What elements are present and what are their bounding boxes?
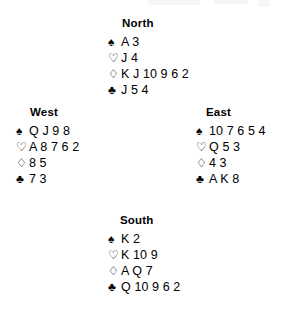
club-icon: ♣ (108, 279, 121, 295)
hand-south-clubs: Q 10 9 6 2 (121, 279, 180, 295)
hand-east-clubs: A K 8 (209, 171, 239, 187)
hand-south-label: South (120, 213, 228, 227)
spade-icon: ♠ (108, 34, 121, 50)
scan-artifact (148, 0, 200, 5)
heart-icon: ♡ (196, 139, 209, 155)
hand-west-spades: Q J 9 8 (29, 123, 70, 139)
hand-east-spades-row: ♠ 10 7 6 5 4 (196, 123, 292, 139)
hand-west-clubs-row: ♣ 7 3 (16, 171, 136, 187)
hand-west-label: West (30, 105, 136, 119)
hand-south-clubs-row: ♣ Q 10 9 6 2 (108, 279, 228, 295)
diamond-icon: ♢ (16, 155, 29, 171)
hand-north-hearts: J 4 (121, 50, 138, 66)
club-icon: ♣ (196, 171, 209, 187)
club-icon: ♣ (16, 171, 29, 187)
hand-west-clubs: 7 3 (29, 171, 47, 187)
heart-icon: ♡ (108, 50, 121, 66)
hand-south-diamonds-row: ♢ A Q 7 (108, 263, 228, 279)
hand-south-hearts-row: ♡ K 10 9 (108, 247, 228, 263)
diamond-icon: ♢ (108, 66, 121, 82)
hand-north-clubs: J 5 4 (121, 82, 149, 98)
hand-north-diamonds: K J 10 9 6 2 (121, 66, 189, 82)
hand-west-diamonds-row: ♢ 8 5 (16, 155, 136, 171)
hand-south-spades-row: ♠ K 2 (108, 231, 228, 247)
hand-north-spades: A 3 (121, 34, 139, 50)
hand-west-hearts: A 8 7 6 2 (29, 139, 79, 155)
heart-icon: ♡ (108, 247, 121, 263)
hand-west: West ♠ Q J 9 8 ♡ A 8 7 6 2 ♢ 8 5 ♣ 7 3 (16, 105, 136, 187)
hand-north-label: North (122, 16, 228, 30)
hand-east-diamonds: 4 3 (209, 155, 227, 171)
hand-east-spades: 10 7 6 5 4 (209, 123, 266, 139)
hand-east-diamonds-row: ♢ 4 3 (196, 155, 292, 171)
hand-south-diamonds: A Q 7 (121, 263, 153, 279)
hand-north-clubs-row: ♣ J 5 4 (108, 82, 228, 98)
hand-east-hearts: Q 5 3 (209, 139, 240, 155)
hand-south-spades: K 2 (121, 231, 140, 247)
hand-north: North ♠ A 3 ♡ J 4 ♢ K J 10 9 6 2 ♣ J 5 4 (108, 16, 228, 98)
hand-south: South ♠ K 2 ♡ K 10 9 ♢ A Q 7 ♣ Q 10 9 6 … (108, 213, 228, 295)
hand-north-hearts-row: ♡ J 4 (108, 50, 228, 66)
hand-east: East ♠ 10 7 6 5 4 ♡ Q 5 3 ♢ 4 3 ♣ A K 8 (196, 105, 292, 187)
hand-north-diamonds-row: ♢ K J 10 9 6 2 (108, 66, 228, 82)
scan-artifact (214, 0, 248, 4)
hand-west-diamonds: 8 5 (29, 155, 47, 171)
scan-artifact (258, 0, 270, 7)
diamond-icon: ♢ (108, 263, 121, 279)
hand-north-spades-row: ♠ A 3 (108, 34, 228, 50)
heart-icon: ♡ (16, 139, 29, 155)
hand-east-clubs-row: ♣ A K 8 (196, 171, 292, 187)
hand-south-hearts: K 10 9 (121, 247, 158, 263)
hand-west-hearts-row: ♡ A 8 7 6 2 (16, 139, 136, 155)
diamond-icon: ♢ (196, 155, 209, 171)
hand-east-label: East (206, 105, 292, 119)
spade-icon: ♠ (108, 231, 121, 247)
hand-east-hearts-row: ♡ Q 5 3 (196, 139, 292, 155)
spade-icon: ♠ (196, 123, 209, 139)
club-icon: ♣ (108, 82, 121, 98)
spade-icon: ♠ (16, 123, 29, 139)
hand-west-spades-row: ♠ Q J 9 8 (16, 123, 136, 139)
